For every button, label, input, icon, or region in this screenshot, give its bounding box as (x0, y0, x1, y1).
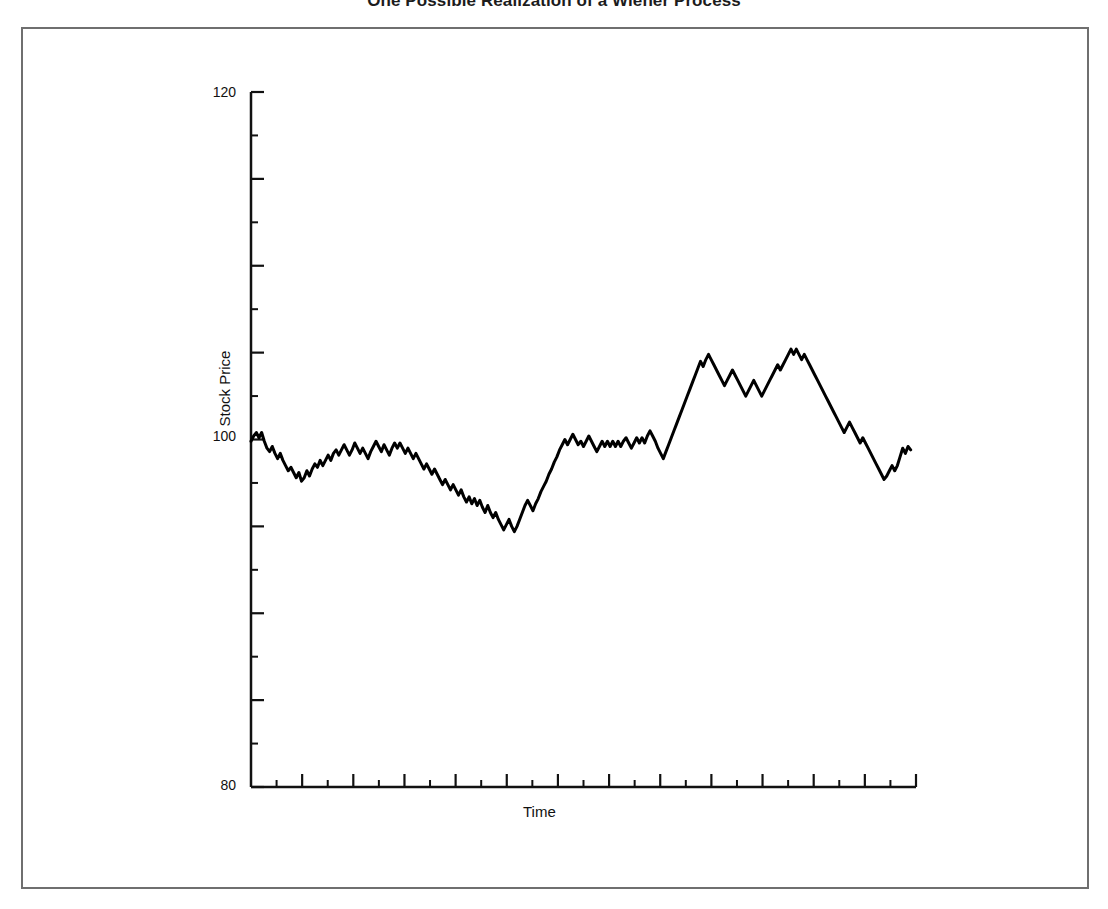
chart-page: One Possible Realization of a Wiener Pro… (0, 0, 1108, 909)
y-tick-label-80: 80 (186, 777, 236, 793)
x-axis-ticks (277, 774, 916, 787)
plot-area (0, 0, 1108, 909)
y-tick-label-120: 120 (186, 84, 236, 100)
x-axis-label: Time (523, 803, 556, 820)
y-axis-label: Stock Price (216, 329, 233, 449)
wiener-process-line (251, 349, 911, 531)
axes (251, 92, 916, 787)
